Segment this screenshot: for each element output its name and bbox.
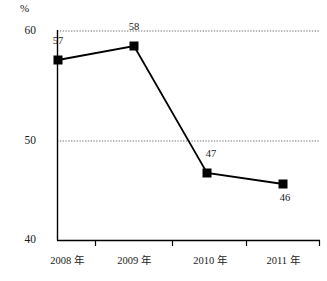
line-chart: % 60 50 40 57 58 47 46 2008 年 2009 年 201… <box>0 0 327 281</box>
x-tick-label-2010: 2010 年 <box>181 252 239 267</box>
data-point-2009 <box>130 42 139 51</box>
data-label-2009: 58 <box>121 21 147 32</box>
data-label-2011: 46 <box>272 192 298 203</box>
data-point-2011 <box>279 180 288 189</box>
series-line <box>58 46 283 184</box>
x-tick-label-2011: 2011 年 <box>254 252 312 267</box>
data-point-2010 <box>203 169 212 178</box>
data-label-2008: 57 <box>45 35 71 46</box>
x-tick-label-2009: 2009 年 <box>105 252 163 267</box>
x-tick-label-2008: 2008 年 <box>38 252 96 267</box>
data-point-2008 <box>54 56 63 65</box>
data-label-2010: 47 <box>198 148 224 159</box>
